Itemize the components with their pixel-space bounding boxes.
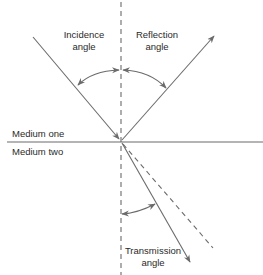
incidence-angle-label-line2: angle xyxy=(72,41,95,52)
reflection-angle-label-line1: Reflection xyxy=(136,29,178,40)
reflection-angle-arc-icon xyxy=(123,70,166,88)
medium-one-label: Medium one xyxy=(12,128,64,139)
reflection-angle-label-line2: angle xyxy=(145,41,168,52)
refraction-diagram: Incidence angle Reflection angle Medium … xyxy=(0,0,263,275)
transmission-angle-label-line2: angle xyxy=(141,257,164,268)
transmission-angle-arc-icon xyxy=(122,204,155,214)
medium-two-label: Medium two xyxy=(12,146,63,157)
incident-ray-arrow xyxy=(33,37,119,139)
incidence-angle-label-line1: Incidence xyxy=(64,29,105,40)
incidence-angle-arc-icon xyxy=(78,70,119,85)
transmission-angle-label-line1: Transmission xyxy=(125,245,181,256)
extended-incident-ray xyxy=(123,144,213,248)
